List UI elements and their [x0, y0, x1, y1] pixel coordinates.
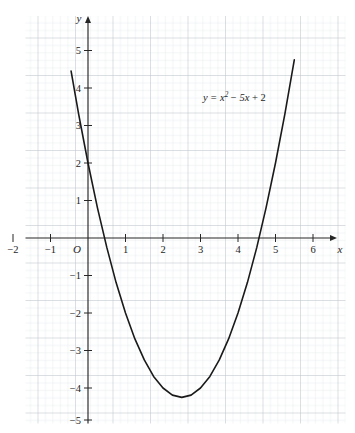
- svg-text:y=x2−5x+2: y=x2−5x+2: [202, 91, 266, 103]
- equation-minus: −: [231, 92, 237, 103]
- equation-lhs: y: [202, 92, 208, 103]
- x-axis-label: x: [337, 243, 343, 255]
- x-tick-label: −2: [7, 244, 18, 255]
- x-tick-label: 6: [310, 244, 315, 255]
- equation-plus: +: [252, 92, 258, 103]
- y-tick-label: −2: [70, 308, 81, 319]
- grid: [26, 16, 346, 424]
- y-tick-label: −5: [70, 415, 81, 426]
- equation-equals: =: [211, 92, 217, 103]
- y-tick-label: −3: [70, 345, 81, 356]
- parabola-plot: −2 −1 1 2 3 4 5 6 5 4 3 2 1 −1 −2 −3 −4 …: [0, 0, 355, 433]
- x-tick-label: 4: [235, 244, 241, 255]
- equation-term2: 5x: [239, 92, 249, 103]
- graph-figure: −2 −1 1 2 3 4 5 6 5 4 3 2 1 −1 −2 −3 −4 …: [0, 0, 355, 433]
- y-tick-label: 1: [76, 195, 81, 206]
- equation-label: y=x2−5x+2: [202, 91, 266, 103]
- origin-label: O: [73, 243, 81, 255]
- y-tick-label: −1: [70, 270, 81, 281]
- equation-term1-exponent: 2: [225, 91, 229, 99]
- equation-term3: 2: [260, 92, 265, 103]
- x-tick-label: −1: [45, 244, 56, 255]
- x-tick-label: 5: [273, 244, 278, 255]
- y-tick-label: 5: [76, 45, 81, 56]
- y-tick-label: 2: [76, 158, 81, 169]
- x-tick-label: 1: [123, 244, 128, 255]
- y-axis-label: y: [76, 12, 82, 24]
- y-tick-label: 4: [76, 83, 82, 94]
- x-tick-label: 2: [160, 244, 165, 255]
- y-tick-label: −4: [70, 383, 82, 394]
- x-tick-label: 3: [198, 244, 203, 255]
